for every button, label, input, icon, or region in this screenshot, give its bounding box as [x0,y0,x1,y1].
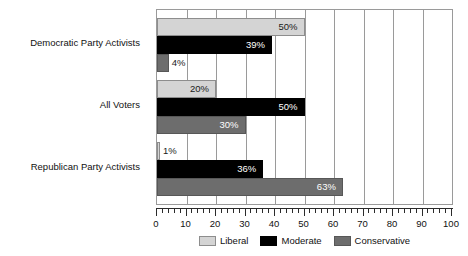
gridline-100 [452,10,453,204]
plot-area: 50%39%4%20%50%30%1%36%63% [156,9,453,205]
x-axis [156,208,453,217]
x-axis-tick-labels: 0102030405060708090100 [156,218,453,231]
axis-tick [239,209,240,213]
axis-tick [191,209,192,213]
axis-tick [351,209,352,213]
bar-value-label: 50% [279,98,298,116]
axis-tick [174,209,175,213]
axis-tick [439,209,440,213]
axis-tick-label: 30 [239,218,250,230]
legend-swatch-icon [199,236,216,246]
axis-tick-label: 60 [328,218,339,230]
axis-tick [386,209,387,213]
legend-label: Liberal [220,236,249,246]
bar-value-label: 30% [220,116,239,134]
axis-tick [186,209,187,216]
axis-tick [339,209,340,213]
axis-tick [280,209,281,213]
category-label: Republican Party Activists [31,162,140,172]
axis-tick [245,209,246,216]
axis-tick [162,209,163,213]
axis-tick [333,209,334,216]
bars-layer: 50%39%4%20%50%30%1%36%63% [157,10,452,204]
axis-tick [215,209,216,216]
axis-tick [262,209,263,213]
axis-tick [392,209,393,216]
bar-value-label: 36% [237,160,256,178]
axis-tick [256,209,257,213]
axis-tick [268,209,269,213]
axis-tick [416,209,417,213]
bar-value-label: 1% [163,142,177,160]
axis-tick [410,209,411,213]
axis-tick [451,209,452,216]
legend-label: Moderate [281,236,321,246]
axis-tick [274,209,275,216]
category-label: All Voters [100,100,140,110]
axis-tick-label: 50 [298,218,309,230]
legend-item-liberal[interactable]: Liberal [199,236,249,246]
bar-chart: Democratic Party ActivistsAll VotersRepu… [0,0,468,256]
bar-value-label: 50% [279,18,298,36]
legend-swatch-icon [260,236,277,246]
legend-swatch-icon [334,236,351,246]
axis-tick [309,209,310,213]
bar [157,178,343,196]
axis-tick [404,209,405,213]
axis-tick-label: 20 [210,218,221,230]
legend-item-moderate[interactable]: Moderate [260,236,321,246]
axis-tick [327,209,328,213]
bar-value-label: 39% [246,36,265,54]
bar-value-label: 20% [190,80,209,98]
axis-tick [445,209,446,213]
category-label: Democratic Party Activists [30,38,140,48]
axis-tick [422,209,423,216]
axis-tick [368,209,369,213]
axis-tick-label: 80 [387,218,398,230]
axis-tick [286,209,287,213]
axis-tick [292,209,293,213]
axis-tick-label: 0 [153,218,158,230]
axis-tick [209,209,210,213]
axis-tick [374,209,375,213]
axis-tick-label: 40 [269,218,280,230]
axis-tick [227,209,228,213]
axis-tick [156,209,157,216]
axis-tick [221,209,222,213]
axis-tick [250,209,251,213]
bar-value-label: 4% [172,54,186,72]
axis-tick [298,209,299,213]
legend-label: Conservative [355,236,410,246]
axis-tick [433,209,434,213]
axis-tick-label: 90 [416,218,427,230]
axis-tick [357,209,358,213]
axis-tick [363,209,364,216]
axis-tick [380,209,381,213]
bar-value-label: 63% [317,178,336,196]
bar [157,54,169,72]
axis-tick [197,209,198,213]
axis-tick [304,209,305,216]
axis-tick [345,209,346,213]
axis-tick-label: 70 [357,218,368,230]
chart-legend: LiberalModerateConservative [156,234,453,248]
category-axis-labels: Democratic Party ActivistsAll VotersRepu… [0,8,148,204]
legend-item-conservative[interactable]: Conservative [334,236,410,246]
axis-tick [427,209,428,213]
axis-tick [180,209,181,213]
axis-tick [168,209,169,213]
axis-tick [398,209,399,213]
axis-tick-label: 100 [443,218,459,230]
axis-tick-label: 10 [180,218,191,230]
axis-tick [233,209,234,213]
x-axis-line [156,208,453,209]
axis-tick [203,209,204,213]
bar [157,142,160,160]
axis-tick [315,209,316,213]
axis-tick [321,209,322,213]
